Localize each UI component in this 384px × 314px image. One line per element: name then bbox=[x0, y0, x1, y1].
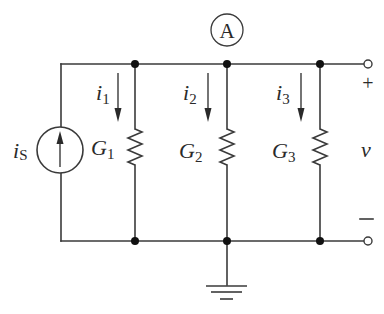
node-bottom-2 bbox=[223, 237, 231, 245]
terminal-negative bbox=[364, 237, 372, 245]
node-top-1 bbox=[131, 60, 139, 68]
source-label: iS bbox=[13, 138, 27, 163]
circuit-diagram: iS i1 G1 i2 G2 i3 G3 + v bbox=[0, 0, 384, 314]
g2-label: G2 bbox=[179, 138, 202, 165]
ground-icon bbox=[206, 286, 247, 299]
i2-label: i2 bbox=[183, 80, 197, 107]
i2-arrow-down-icon bbox=[205, 108, 212, 122]
node-top-3 bbox=[316, 60, 324, 68]
node-bottom-1 bbox=[131, 237, 139, 245]
i1-label: i1 bbox=[96, 80, 110, 107]
node-top-2 bbox=[223, 60, 231, 68]
resistor-g1 bbox=[128, 129, 142, 165]
plus-sign: + bbox=[362, 72, 373, 94]
voltage-label: v bbox=[361, 137, 371, 162]
node-a-label: A bbox=[219, 19, 235, 43]
current-source bbox=[37, 127, 83, 173]
resistor-g3 bbox=[313, 129, 327, 165]
node-a-marker: A bbox=[211, 14, 243, 46]
terminal-positive bbox=[364, 60, 372, 68]
i3-label: i3 bbox=[276, 80, 290, 107]
resistor-g2 bbox=[220, 129, 234, 165]
g1-label: G1 bbox=[91, 135, 114, 162]
g3-label: G3 bbox=[272, 138, 295, 165]
node-bottom-3 bbox=[316, 237, 324, 245]
i3-arrow-down-icon bbox=[298, 108, 305, 122]
i1-arrow-down-icon bbox=[115, 108, 122, 122]
